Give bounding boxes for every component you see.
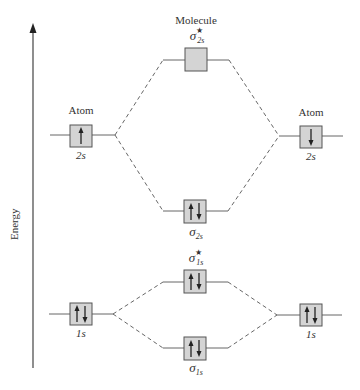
energy-axis — [30, 23, 37, 368]
orbital-box-sigma-1s — [184, 337, 206, 360]
orbital-box-sigma-star-2s — [185, 48, 207, 71]
star-icon: ★ — [196, 26, 203, 35]
orbital-label-sigma-star-2s: σ★2s — [190, 28, 205, 45]
orbital-box-sigma-2s — [184, 200, 206, 223]
orbital-label-sigma-2s: σ2s — [189, 224, 203, 241]
orbital-box-left-1s — [70, 303, 92, 325]
arrow-up-icon — [30, 23, 37, 33]
star-icon: ★ — [195, 248, 202, 257]
orbital-label-sigma-star-1s: σ★1s — [189, 250, 204, 267]
atom-left-label: Atom — [68, 104, 93, 116]
energy-axis-label: Energy — [8, 208, 20, 240]
connectors-2s — [115, 60, 279, 211]
orbital-label-right-1s: 1s — [306, 328, 316, 340]
orbital-label-left-1s: 1s — [76, 327, 86, 339]
orbital-box-sigma-star-1s — [184, 270, 206, 293]
molecule-label: Molecule — [175, 14, 217, 26]
orbital-label-right-2s: 2s — [306, 150, 316, 162]
orbital-box-right-1s — [300, 304, 322, 326]
atom-right-label: Atom — [298, 106, 323, 118]
orbital-label-sigma-1s: σ1s — [189, 360, 203, 377]
orbital-label-left-2s: 2s — [76, 149, 86, 161]
